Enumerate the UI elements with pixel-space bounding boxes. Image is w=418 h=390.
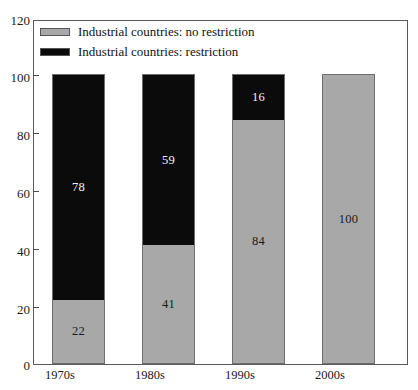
bars-layer: 78 22 59 41 16 <box>34 21 407 364</box>
bar-value-label: 22 <box>72 325 85 338</box>
bar-stack: 59 41 <box>142 74 195 364</box>
legend: Industrial countries: no restriction Ind… <box>40 24 300 64</box>
bar-segment-no-restriction[interactable]: 100 <box>322 74 375 364</box>
legend-label: Industrial countries: no restriction <box>78 25 255 39</box>
x-axis-label-1970s: 1970s <box>15 369 105 382</box>
x-axis-label-1990s: 1990s <box>195 369 285 382</box>
bar-segment-restriction[interactable]: 78 <box>52 74 105 300</box>
bar-value-label: 41 <box>162 298 175 311</box>
bar-segment-no-restriction[interactable]: 41 <box>142 245 195 364</box>
legend-swatch-icon-restriction <box>40 48 70 56</box>
stacked-bar-chart: 120 100 80 60 40 20 0 78 22 59 <box>0 0 418 390</box>
bar-value-label: 16 <box>252 91 265 104</box>
x-axis-label-1980s: 1980s <box>105 369 195 382</box>
legend-item-no-restriction[interactable]: Industrial countries: no restriction <box>40 24 300 40</box>
y-axis-tick-label-100: 100 <box>0 71 30 84</box>
y-axis-tick-label-120: 120 <box>0 14 30 27</box>
legend-item-restriction[interactable]: Industrial countries: restriction <box>40 44 300 60</box>
y-axis-tick-label-20: 20 <box>0 303 30 316</box>
bar-stack: 100 <box>322 74 375 364</box>
bar-value-label: 59 <box>162 154 175 167</box>
bar-value-label: 84 <box>252 235 265 248</box>
x-axis-label-2000s: 2000s <box>285 369 375 382</box>
y-axis-tick-label-80: 80 <box>0 129 30 142</box>
bar-group-1990s[interactable]: 16 84 <box>232 21 285 364</box>
bar-segment-restriction[interactable]: 16 <box>232 74 285 120</box>
bar-group-1980s[interactable]: 59 41 <box>142 21 195 364</box>
bar-group-1970s[interactable]: 78 22 <box>52 21 105 364</box>
bar-value-label: 100 <box>339 213 358 226</box>
bar-segment-no-restriction[interactable]: 22 <box>52 300 105 364</box>
y-axis-tick-label-60: 60 <box>0 187 30 200</box>
bar-segment-no-restriction[interactable]: 84 <box>232 120 285 364</box>
legend-label: Industrial countries: restriction <box>78 45 238 59</box>
bar-segment-restriction[interactable]: 59 <box>142 74 195 245</box>
bar-stack: 78 22 <box>52 74 105 364</box>
y-axis-tick-label-40: 40 <box>0 245 30 258</box>
legend-swatch-icon-no-restriction <box>40 28 70 36</box>
bar-group-2000s[interactable]: 100 <box>322 21 375 364</box>
bar-value-label: 78 <box>72 181 85 194</box>
bar-stack: 16 84 <box>232 74 285 364</box>
